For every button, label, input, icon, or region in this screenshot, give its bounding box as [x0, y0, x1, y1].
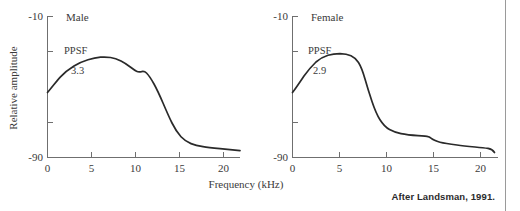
x-tick-label-male-5: 5: [89, 162, 95, 174]
annotation-ppsf-male: PPSF: [64, 45, 88, 56]
panel-male: Relative amplitude -10 -90 0 5 10 15 20 …: [7, 10, 240, 174]
x-tick-label-male-20: 20: [218, 162, 230, 174]
panel-title-male: Male: [66, 11, 89, 23]
y-axis-title-male: Relative amplitude: [7, 46, 19, 130]
figure-container: Relative amplitude -10 -90 0 5 10 15 20 …: [0, 0, 520, 211]
dual-panel-line-chart: Relative amplitude -10 -90 0 5 10 15 20 …: [0, 0, 520, 211]
panel-title-female: Female: [311, 11, 343, 23]
axis-lines-female: [293, 16, 499, 158]
axis-lines-male: [48, 16, 241, 158]
y-tick-label-bottom-male: -90: [28, 151, 43, 163]
x-tick-label-female-10: 10: [381, 162, 393, 174]
x-tick-label-male-10: 10: [130, 162, 142, 174]
x-tick-label-female-5: 5: [337, 162, 343, 174]
x-tick-label-female-15: 15: [428, 162, 440, 174]
y-tick-label-bottom-female: -90: [273, 151, 288, 163]
x-tick-label-female-0: 0: [290, 162, 296, 174]
right-border-rule: [505, 0, 506, 211]
x-axis-title-shared: Frequency (kHz): [209, 178, 284, 191]
x-tick-label-male-0: 0: [45, 162, 51, 174]
panel-female: -10 -90 0 5 10 15 20 Female PPSF 2.: [273, 10, 498, 174]
y-tick-label-top-male: -10: [28, 10, 43, 22]
x-tick-label-female-20: 20: [475, 162, 487, 174]
y-tick-label-top-female: -10: [273, 10, 288, 22]
x-tick-label-male-15: 15: [174, 162, 186, 174]
figure-credit: After Landsman, 1991.: [392, 191, 495, 202]
annotation-value-female: 2.9: [313, 65, 326, 76]
